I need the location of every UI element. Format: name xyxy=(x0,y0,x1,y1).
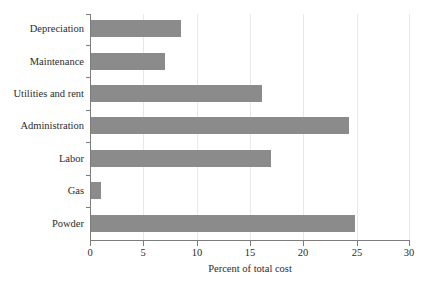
y-axis-line xyxy=(90,14,91,241)
y-axis-tick-label: Utilities and rent xyxy=(0,85,84,102)
y-axis-tick-label: Maintenance xyxy=(0,53,84,70)
plot-area xyxy=(90,14,410,240)
y-axis-tick-label: Depreciation xyxy=(0,20,84,37)
x-axis-tick-label: 0 xyxy=(87,247,92,258)
y-axis-label-row: Gas xyxy=(0,182,84,199)
x-axis-tick-label: 30 xyxy=(404,247,415,258)
y-axis-label-row: Depreciation xyxy=(0,20,84,37)
x-axis-title: Percent of total cost xyxy=(90,263,410,274)
x-axis-tick-label: 5 xyxy=(140,247,145,258)
x-axis-tick-label: 10 xyxy=(192,247,203,258)
y-axis-label-row: Administration xyxy=(0,117,84,134)
y-axis-tick-label: Administration xyxy=(0,117,84,134)
x-tick xyxy=(303,241,304,246)
y-axis-label-row: Powder xyxy=(0,215,84,232)
x-tick xyxy=(409,241,410,246)
gridline xyxy=(357,14,358,240)
y-axis-tick-label: Labor xyxy=(0,150,84,167)
bar-depreciation xyxy=(90,20,181,37)
y-axis-tick-label: Gas xyxy=(0,182,84,199)
y-axis-label-row: Utilities and rent xyxy=(0,85,84,102)
gridline xyxy=(409,14,410,240)
bar-gas xyxy=(90,182,101,199)
x-tick xyxy=(90,241,91,246)
x-tick xyxy=(143,241,144,246)
y-axis-tick-label: Powder xyxy=(0,215,84,232)
bar-chart: Depreciation Maintenance Utilities and r… xyxy=(0,0,423,285)
bar-maintenance xyxy=(90,53,165,70)
bar-utilities-and-rent xyxy=(90,85,262,102)
x-axis-tick-label: 15 xyxy=(245,247,256,258)
x-tick xyxy=(357,241,358,246)
x-tick xyxy=(250,241,251,246)
x-tick xyxy=(197,241,198,246)
bar-powder xyxy=(90,215,355,232)
x-axis-tick-label: 25 xyxy=(352,247,363,258)
y-axis-label-row: Maintenance xyxy=(0,53,84,70)
bar-labor xyxy=(90,150,271,167)
bar-administration xyxy=(90,117,349,134)
x-axis-tick-label: 20 xyxy=(298,247,309,258)
y-axis-label-row: Labor xyxy=(0,150,84,167)
